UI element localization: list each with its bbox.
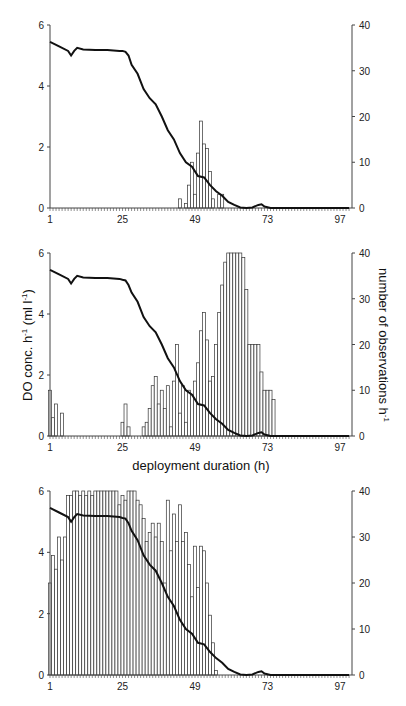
bar — [224, 262, 227, 436]
bar — [209, 171, 212, 208]
x-axis-label: deployment duration (h) — [132, 458, 269, 473]
bar — [215, 345, 218, 437]
bar — [266, 390, 269, 436]
bar — [209, 615, 212, 675]
right-y-tick-label: 20 — [359, 578, 371, 589]
chart-panel-middle: 1254973970246010203040 — [38, 248, 370, 453]
bar — [197, 588, 200, 675]
bar — [100, 491, 103, 675]
bar — [184, 422, 187, 436]
right-y-tick-label: 20 — [359, 340, 371, 351]
bar — [230, 253, 233, 436]
bar — [133, 491, 136, 675]
bar — [190, 395, 193, 436]
bar — [206, 149, 209, 208]
bar — [94, 491, 97, 675]
x-tick-label: 1 — [47, 214, 53, 225]
left-y-tick-label: 6 — [38, 20, 44, 31]
bar — [118, 505, 121, 675]
right-y-tick-label: 10 — [359, 385, 371, 396]
x-tick-label: 97 — [334, 214, 346, 225]
observation-bars — [178, 121, 223, 208]
bar — [85, 496, 88, 675]
bar — [218, 312, 221, 436]
bar — [187, 565, 190, 675]
left-y-tick-label: 0 — [38, 670, 44, 681]
x-tick-label: 25 — [117, 681, 129, 692]
bar — [166, 500, 169, 675]
right-y-tick-label: 40 — [359, 486, 371, 497]
right-y-tick-label: 40 — [359, 248, 371, 259]
left-y-tick-label: 6 — [38, 486, 44, 497]
bar — [203, 551, 206, 675]
bar — [157, 404, 160, 436]
bar — [160, 542, 163, 675]
bar — [200, 546, 203, 675]
bar — [52, 555, 55, 675]
bar — [58, 537, 61, 675]
bar — [163, 583, 166, 675]
right-y-tick-label: 40 — [359, 20, 371, 31]
bar — [91, 496, 94, 675]
left-y-tick-label: 2 — [38, 609, 44, 620]
right-y-tick-label: 0 — [359, 431, 365, 442]
bar — [169, 427, 172, 436]
x-tick-label: 97 — [334, 442, 346, 453]
bar — [194, 546, 197, 675]
x-tick-label: 73 — [262, 442, 274, 453]
bar — [212, 199, 215, 208]
bar — [233, 253, 236, 436]
right-y-tick-label: 0 — [359, 670, 365, 681]
bar — [112, 491, 115, 675]
bar — [187, 185, 190, 208]
x-tick-label: 1 — [47, 681, 53, 692]
bar — [52, 418, 55, 436]
bar — [239, 253, 242, 436]
bar — [166, 386, 169, 436]
bar — [181, 542, 184, 675]
bar — [106, 491, 109, 675]
bar — [187, 390, 190, 436]
bar — [206, 340, 209, 436]
left-y-tick-label: 2 — [38, 142, 44, 153]
bar — [248, 345, 251, 437]
bar — [124, 404, 127, 436]
bar — [272, 399, 275, 436]
left-y-tick-label: 4 — [38, 81, 44, 92]
x-tick-label: 49 — [189, 442, 201, 453]
bar — [55, 569, 58, 675]
bar — [212, 643, 215, 675]
bar — [142, 519, 145, 675]
bar — [227, 253, 230, 436]
right-y-tick-label: 20 — [359, 112, 371, 123]
x-tick-label: 25 — [117, 214, 129, 225]
bar — [148, 409, 151, 436]
bar — [55, 404, 58, 436]
bar — [236, 253, 239, 436]
chart-panel-top: 1254973970246010203040 — [38, 20, 370, 225]
bar — [254, 345, 257, 437]
bar — [61, 413, 64, 436]
bar — [269, 390, 272, 436]
bar — [251, 345, 254, 437]
bar — [263, 390, 266, 436]
bar — [245, 290, 248, 436]
bar — [151, 523, 154, 675]
bar — [215, 670, 218, 675]
bar — [197, 153, 200, 208]
bar — [82, 491, 85, 675]
bar — [181, 386, 184, 436]
bar — [124, 500, 127, 675]
y-axis-label-right: number of observations h-1 — [376, 268, 391, 422]
bar — [184, 203, 187, 208]
bar — [139, 505, 142, 675]
bar — [172, 514, 175, 675]
bar — [145, 422, 148, 436]
bar — [103, 491, 106, 675]
bar — [148, 532, 151, 675]
left-y-tick-label: 4 — [38, 547, 44, 558]
bar — [257, 345, 260, 437]
bar — [218, 194, 221, 208]
bar — [172, 381, 175, 436]
bar — [142, 427, 145, 436]
